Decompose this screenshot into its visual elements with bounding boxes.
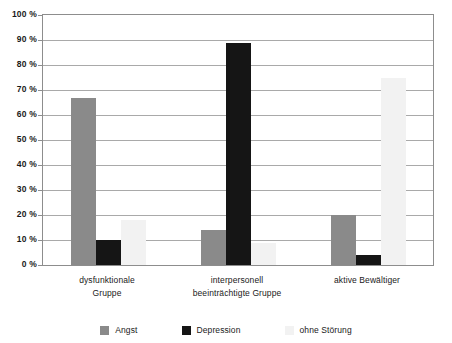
bar-angst-1: [71, 98, 96, 266]
y-axis-tick-label: 50 %: [17, 134, 37, 144]
legend-item-ohne-störung[interactable]: ohne Störung: [285, 325, 352, 335]
y-axis-tick-label: 60 %: [17, 109, 37, 119]
legend-swatch-icon: [100, 326, 109, 335]
y-axis-tick-label: 20 %: [17, 209, 37, 219]
y-axis-tick-label: 100 %: [12, 9, 37, 19]
y-axis-tick-label: 10 %: [17, 234, 37, 244]
bar-angst-3: [331, 215, 356, 265]
y-axis-tick-mark: [38, 265, 43, 266]
bar-depression-2: [226, 43, 251, 266]
legend-item-depression[interactable]: Depression: [182, 325, 241, 335]
y-axis-tick-label: 70 %: [17, 84, 37, 94]
x-axis-label-line: beeinträchtigte Gruppe: [160, 287, 314, 300]
x-axis-label-line: aktive Bewältiger: [290, 274, 444, 287]
bars-layer: [43, 15, 433, 265]
legend-label: ohne Störung: [300, 325, 352, 335]
bar-chart: 100 %90 %80 %70 %60 %50 %40 %30 %20 %10 …: [0, 0, 452, 343]
chart-legend: AngstDepressionohne Störung: [0, 320, 452, 340]
y-axis-tick-label: 30 %: [17, 184, 37, 194]
x-axis-label-3: aktive Bewältiger: [290, 274, 444, 287]
bar-ohne-störung-1: [121, 220, 146, 265]
legend-swatch-icon: [285, 326, 294, 335]
legend-label: Angst: [115, 325, 137, 335]
y-axis-tick-label: 40 %: [17, 159, 37, 169]
legend-label: Depression: [197, 325, 241, 335]
plot-area: [42, 14, 434, 266]
bar-ohne-störung-2: [251, 243, 276, 266]
legend-swatch-icon: [182, 326, 191, 335]
y-axis-tick-label: 0 %: [22, 259, 37, 269]
y-axis: 100 %90 %80 %70 %60 %50 %40 %30 %20 %10 …: [0, 0, 40, 275]
y-axis-tick-label: 80 %: [17, 59, 37, 69]
bar-ohne-störung-3: [381, 78, 406, 266]
bar-angst-2: [201, 230, 226, 265]
y-axis-tick-label: 90 %: [17, 34, 37, 44]
bar-depression-1: [96, 240, 121, 265]
bar-depression-3: [356, 255, 381, 265]
x-axis-category-labels: dysfunktionaleGruppeinterpersonellbeeint…: [42, 274, 434, 310]
legend-item-angst[interactable]: Angst: [100, 325, 137, 335]
